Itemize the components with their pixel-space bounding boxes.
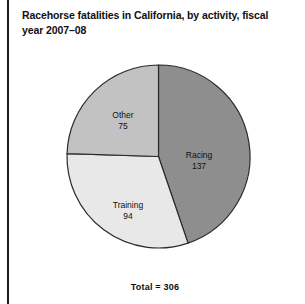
pie-slice-label-racing: Racing 137 (172, 150, 226, 171)
pie-slice-value-racing: 137 (172, 161, 226, 172)
pie-chart: Racing 137 Other 75 Training 94 (0, 0, 305, 304)
figure-container: Racehorse fatalities in California, by a… (0, 0, 305, 304)
pie-slice-label-other: Other 75 (96, 110, 150, 131)
pie-chart-svg (0, 0, 305, 304)
pie-slice-label-training: Training 94 (98, 200, 158, 221)
pie-slice-name-racing: Racing (172, 150, 226, 161)
total-label: Total = 306 (95, 282, 215, 292)
pie-slice-name-other: Other (96, 110, 150, 121)
pie-slice-value-training: 94 (98, 211, 158, 222)
pie-slice-name-training: Training (98, 200, 158, 211)
pie-slice-value-other: 75 (96, 121, 150, 132)
